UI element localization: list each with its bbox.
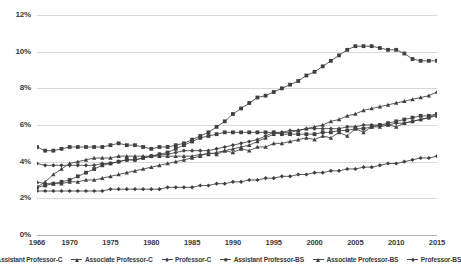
data-point-marker bbox=[321, 134, 325, 138]
legend-item[interactable]: Professor-C bbox=[162, 256, 212, 263]
y-axis-tick-label: 2% bbox=[0, 193, 31, 202]
data-point-marker bbox=[272, 130, 276, 134]
data-point-marker bbox=[329, 130, 333, 134]
data-point-marker bbox=[435, 90, 437, 94]
data-point-marker bbox=[263, 176, 267, 180]
x-axis-line bbox=[37, 235, 437, 236]
data-point-marker bbox=[198, 149, 202, 153]
x-axis-tick-label: 2005 bbox=[335, 238, 375, 247]
data-point-marker bbox=[141, 145, 145, 149]
data-point-marker bbox=[92, 163, 96, 167]
data-point-marker bbox=[321, 123, 325, 127]
data-point-marker bbox=[198, 183, 202, 187]
data-point-marker bbox=[272, 176, 276, 180]
data-point-marker bbox=[43, 163, 47, 167]
data-point-marker bbox=[231, 112, 235, 116]
data-point-marker bbox=[255, 178, 259, 182]
data-point-marker bbox=[37, 185, 39, 189]
data-point-marker bbox=[76, 174, 80, 178]
data-point-marker bbox=[362, 127, 366, 131]
legend-item[interactable]: Associate Professor-C bbox=[71, 256, 152, 263]
data-point-marker bbox=[353, 44, 357, 48]
data-point-marker bbox=[117, 187, 121, 191]
data-point-marker bbox=[304, 74, 308, 78]
data-point-marker bbox=[329, 127, 333, 131]
data-point-marker bbox=[321, 64, 325, 68]
data-point-marker bbox=[312, 171, 316, 175]
legend-item-label: Assistant Professor-BS bbox=[234, 256, 304, 263]
data-point-marker bbox=[100, 145, 104, 149]
data-point-marker bbox=[280, 86, 284, 90]
data-point-marker bbox=[247, 139, 251, 143]
x-axis-tick-label: 2015 bbox=[417, 238, 457, 247]
data-point-marker bbox=[264, 130, 268, 134]
data-point-marker bbox=[92, 189, 96, 193]
data-point-marker bbox=[190, 185, 194, 189]
legend-item-label: Professor-BS bbox=[421, 256, 461, 263]
data-point-marker bbox=[43, 189, 47, 193]
data-point-marker bbox=[51, 172, 55, 176]
data-point-marker bbox=[427, 59, 431, 63]
data-point-marker bbox=[231, 143, 235, 147]
data-point-marker bbox=[37, 161, 39, 165]
series-2 bbox=[37, 90, 437, 189]
data-point-marker bbox=[68, 163, 72, 167]
data-point-marker bbox=[198, 136, 202, 140]
data-point-marker bbox=[280, 132, 284, 136]
data-point-marker bbox=[84, 189, 88, 193]
data-point-marker bbox=[117, 141, 121, 145]
data-point-marker bbox=[231, 180, 235, 184]
y-axis-tick-label: 6% bbox=[0, 120, 31, 129]
x-axis-tick-label: 2000 bbox=[295, 238, 335, 247]
data-point-marker bbox=[256, 130, 260, 134]
data-point-marker bbox=[288, 132, 292, 136]
data-point-marker bbox=[76, 163, 80, 167]
data-point-marker bbox=[51, 149, 55, 153]
legend-item[interactable]: Assistant Professor-BS bbox=[220, 256, 304, 263]
legend-item[interactable]: Professor-BS bbox=[407, 256, 461, 263]
data-point-marker bbox=[59, 189, 63, 193]
data-point-marker bbox=[280, 174, 284, 178]
data-point-marker bbox=[206, 183, 210, 187]
data-point-marker bbox=[68, 189, 72, 193]
data-point-marker bbox=[43, 149, 47, 153]
legend-item[interactable]: Associate Professor-BS bbox=[313, 256, 398, 263]
legend-item-label: Assistant Professor-C bbox=[0, 256, 62, 263]
x-axis-tick-label: 1990 bbox=[213, 238, 253, 247]
data-point-marker bbox=[337, 169, 341, 173]
data-point-marker bbox=[133, 187, 137, 191]
data-point-marker bbox=[313, 70, 317, 74]
data-point-marker bbox=[108, 187, 112, 191]
data-point-marker bbox=[419, 59, 423, 63]
data-point-marker bbox=[304, 136, 308, 140]
data-point-marker bbox=[174, 143, 178, 147]
y-axis-tick-label: 4% bbox=[0, 157, 31, 166]
data-point-marker bbox=[345, 167, 349, 171]
data-point-marker bbox=[321, 171, 325, 175]
data-point-marker bbox=[427, 93, 431, 97]
data-point-marker bbox=[370, 44, 374, 48]
data-point-marker bbox=[337, 53, 341, 57]
data-point-marker bbox=[207, 130, 211, 134]
data-point-marker bbox=[133, 158, 137, 162]
data-point-marker bbox=[362, 44, 366, 48]
data-point-marker bbox=[214, 182, 218, 186]
data-point-marker bbox=[402, 52, 406, 56]
data-point-marker bbox=[76, 189, 80, 193]
series-5 bbox=[37, 114, 437, 186]
data-point-marker bbox=[59, 163, 63, 167]
data-point-marker bbox=[68, 145, 72, 149]
data-point-marker bbox=[411, 116, 415, 120]
data-point-marker bbox=[117, 160, 121, 164]
data-point-marker bbox=[51, 189, 55, 193]
data-point-marker bbox=[149, 187, 153, 191]
data-point-marker bbox=[239, 141, 243, 145]
data-point-marker bbox=[345, 48, 349, 52]
data-point-marker bbox=[166, 185, 170, 189]
x-axis-tick-label: 1975 bbox=[90, 238, 130, 247]
data-point-marker bbox=[231, 130, 235, 134]
data-point-marker bbox=[100, 189, 104, 193]
data-point-marker bbox=[76, 145, 80, 149]
legend-item[interactable]: Assistant Professor-C bbox=[0, 256, 62, 263]
data-point-marker bbox=[141, 156, 145, 160]
